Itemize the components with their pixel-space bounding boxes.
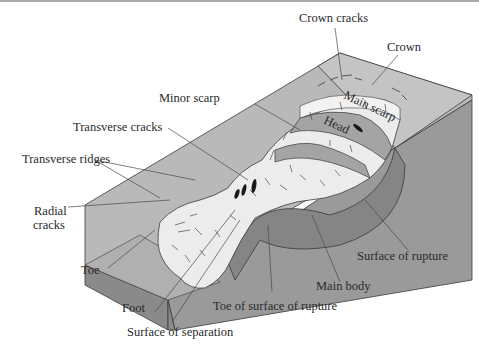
foot-label: Foot: [122, 302, 145, 315]
transverse-ridges-label: Transverse ridges: [22, 153, 110, 166]
crown-label: Crown: [387, 41, 421, 54]
toe-of-surface-of-rupture-label: Toe of surface of rupture: [213, 300, 337, 313]
minor-scarp-label: Minor scarp: [159, 92, 220, 105]
main-body-label: Main body: [316, 280, 371, 293]
toe-label: Toe: [81, 264, 100, 277]
radial-cracks-label-line1: Radial: [34, 205, 67, 218]
crown-cracks-label: Crown cracks: [299, 12, 368, 25]
radial-cracks-label-line2: cracks: [33, 219, 65, 232]
surface-of-separation-label: Surface of separation: [127, 326, 233, 339]
surface-of-rupture-label: Surface of rupture: [357, 250, 448, 263]
transverse-cracks-label: Transverse cracks: [73, 121, 162, 134]
